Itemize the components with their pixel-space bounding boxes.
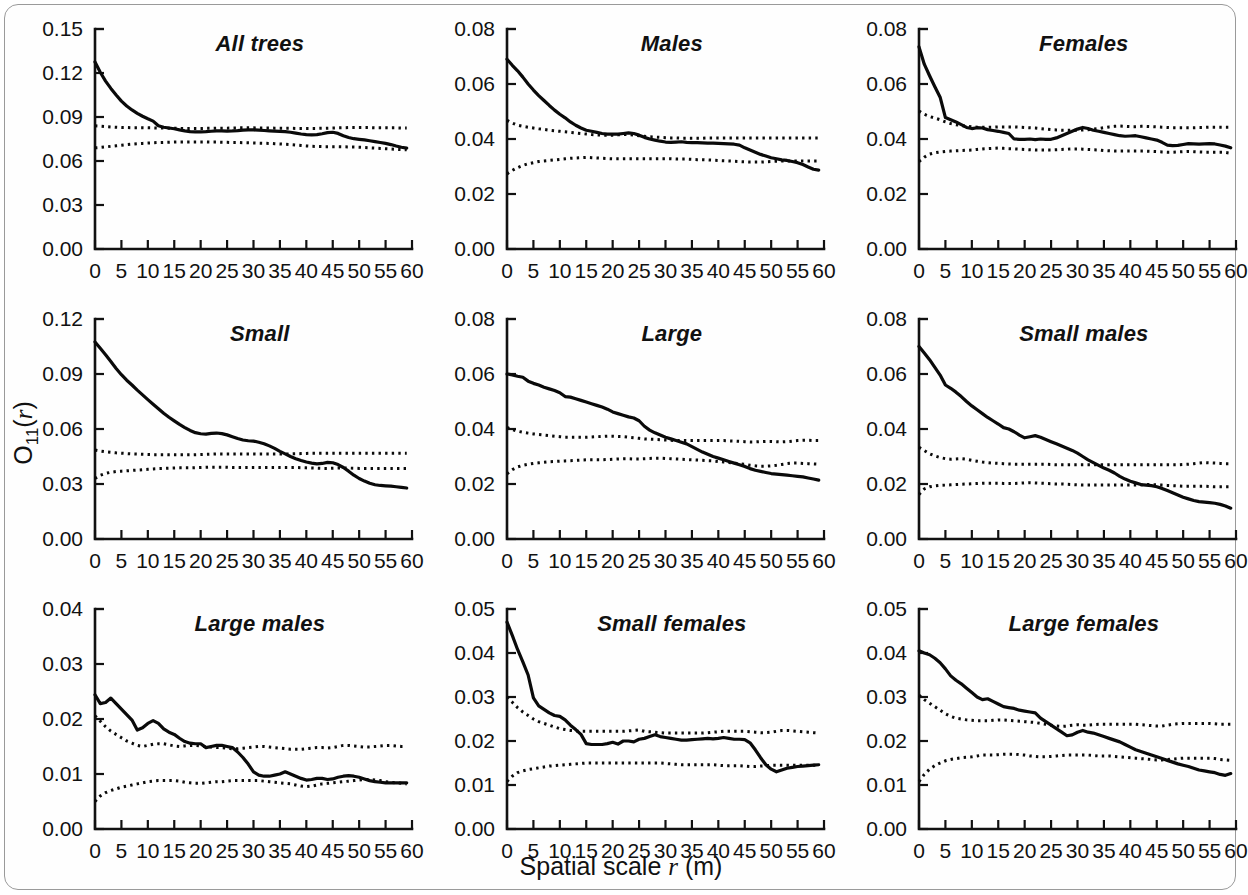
series-upper-envelope	[919, 695, 1231, 726]
x-tick-label: 15	[987, 549, 1010, 572]
y-tick-label: 0.00	[454, 817, 495, 840]
x-tick-label: 60	[812, 259, 835, 282]
x-tick-label: 30	[654, 259, 677, 282]
x-tick-label: 0	[501, 259, 513, 282]
y-tick-label: 0.09	[42, 362, 83, 385]
x-tick-label: 50	[347, 259, 370, 282]
series-observed	[95, 62, 407, 148]
series-upper-envelope	[95, 716, 407, 750]
x-tick-label: 45	[1145, 549, 1168, 572]
x-tick-label: 25	[1039, 549, 1062, 572]
chart-panel-females: 0.000.020.040.060.0805101520253035404550…	[846, 18, 1248, 286]
y-tick-label: 0.02	[866, 729, 907, 752]
y-tick-label: 0.08	[866, 17, 907, 40]
y-tick-label: 0.04	[454, 417, 495, 440]
chart-panel-males: 0.000.020.040.060.0805101520253035404550…	[434, 18, 836, 286]
x-tick-label: 35	[268, 259, 291, 282]
y-tick-label: 0.00	[866, 237, 907, 260]
y-tick-label: 0.00	[42, 237, 83, 260]
chart-panel-large-males: 0.000.010.020.030.0405101520253035404550…	[22, 598, 424, 866]
series-observed	[95, 342, 407, 488]
x-tick-label: 55	[786, 549, 809, 572]
x-tick-label: 20	[1013, 259, 1036, 282]
y-tick-label: 0.04	[866, 127, 907, 150]
x-tick-label: 15	[575, 259, 598, 282]
x-tick-label: 45	[733, 549, 756, 572]
y-tick-label: 0.06	[42, 149, 83, 172]
x-tick-label: 60	[1224, 549, 1247, 572]
y-axis-label-paren-close: )	[9, 401, 37, 409]
y-axis-label: O11(r)	[9, 371, 43, 495]
y-axis-label-container: O11(r)	[6, 378, 46, 498]
x-tick-label: 25	[627, 549, 650, 572]
y-tick-label: 0.00	[866, 817, 907, 840]
chart-panel-all-trees: 0.000.030.060.090.120.150510152025303540…	[22, 18, 424, 286]
x-tick-label: 50	[1171, 259, 1194, 282]
x-tick-label: 20	[1013, 549, 1036, 572]
x-tick-label: 5	[528, 549, 540, 572]
x-tick-label: 10	[548, 549, 571, 572]
x-tick-label: 40	[707, 259, 730, 282]
x-tick-label: 0	[913, 549, 925, 572]
x-tick-label: 5	[940, 259, 952, 282]
x-tick-label: 35	[680, 259, 703, 282]
y-tick-label: 0.04	[454, 641, 495, 664]
y-tick-label: 0.00	[42, 527, 83, 550]
x-tick-label: 10	[136, 259, 159, 282]
x-tick-label: 45	[1145, 259, 1168, 282]
x-tick-label: 40	[295, 549, 318, 572]
series-lower-envelope	[507, 458, 819, 474]
x-tick-label: 55	[374, 549, 397, 572]
y-tick-label: 0.06	[454, 362, 495, 385]
x-tick-label: 10	[136, 549, 159, 572]
y-tick-label: 0.02	[42, 707, 83, 730]
y-tick-label: 0.04	[866, 641, 907, 664]
y-tick-label: 0.02	[454, 182, 495, 205]
x-tick-label: 55	[1198, 259, 1221, 282]
y-tick-label: 0.12	[42, 307, 83, 330]
x-axis-label-variable: r	[668, 853, 678, 880]
x-tick-label: 0	[89, 549, 101, 572]
y-tick-label: 0.02	[866, 182, 907, 205]
x-tick-label: 45	[321, 259, 344, 282]
series-lower-envelope	[919, 148, 1231, 161]
y-axis-label-subscript: 11	[23, 428, 42, 446]
chart-panel-small: 0.000.030.060.090.1205101520253035404550…	[22, 308, 424, 576]
series-lower-envelope	[95, 142, 407, 150]
x-tick-label: 35	[1092, 549, 1115, 572]
y-tick-label: 0.06	[866, 362, 907, 385]
y-tick-label: 0.06	[454, 72, 495, 95]
y-tick-label: 0.00	[454, 527, 495, 550]
x-tick-label: 35	[268, 549, 291, 572]
x-tick-label: 30	[1066, 259, 1089, 282]
x-tick-label: 60	[812, 549, 835, 572]
x-tick-label: 60	[400, 549, 423, 572]
y-axis-label-paren-open: (	[9, 419, 37, 427]
series-observed	[507, 622, 819, 772]
chart-panel-large-females: 0.000.010.020.030.040.050510152025303540…	[846, 598, 1248, 866]
x-tick-label: 40	[707, 549, 730, 572]
x-tick-label: 0	[89, 259, 101, 282]
y-tick-label: 0.03	[42, 652, 83, 675]
x-tick-label: 5	[940, 549, 952, 572]
x-tick-label: 15	[987, 259, 1010, 282]
x-tick-label: 10	[960, 549, 983, 572]
series-observed	[507, 59, 819, 170]
y-tick-label: 0.06	[42, 417, 83, 440]
x-tick-label: 50	[759, 259, 782, 282]
x-tick-label: 55	[786, 259, 809, 282]
axis-lines	[919, 29, 1236, 249]
series-lower-envelope	[507, 763, 819, 781]
y-tick-label: 0.02	[454, 472, 495, 495]
x-tick-label: 15	[163, 549, 186, 572]
y-tick-label: 0.06	[866, 72, 907, 95]
chart-panel-small-males: 0.000.020.040.060.0805101520253035404550…	[846, 308, 1248, 576]
x-tick-label: 40	[295, 259, 318, 282]
y-tick-label: 0.02	[866, 472, 907, 495]
panel-title: Females	[1039, 31, 1128, 56]
x-tick-label: 20	[189, 549, 212, 572]
x-tick-label: 60	[1224, 259, 1247, 282]
series-observed	[919, 47, 1231, 148]
y-tick-label: 0.01	[42, 762, 83, 785]
x-tick-label: 20	[601, 259, 624, 282]
